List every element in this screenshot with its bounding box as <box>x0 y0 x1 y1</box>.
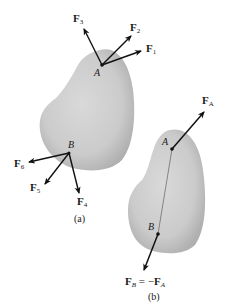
rigid-body-b <box>128 129 205 253</box>
point-a-dot <box>100 63 104 67</box>
label-f3: F3 <box>73 13 83 26</box>
label-point-b-b: B <box>148 222 154 232</box>
point-b-b-dot <box>156 232 160 236</box>
label-point-b: B <box>68 140 74 150</box>
diagram-graphics <box>0 0 235 307</box>
label-fb-equation: FB = −FA <box>125 276 165 289</box>
label-f2: F2 <box>130 22 140 35</box>
rigid-body-figure: F3 F2 F1 A B F6 F5 F4 (a) FA A B FB = −F… <box>0 0 235 307</box>
label-f1: F1 <box>146 43 156 56</box>
label-fa: FA <box>202 95 214 108</box>
rigid-body-a <box>40 49 134 170</box>
label-f4: F4 <box>77 196 87 209</box>
point-b-dot <box>68 152 71 155</box>
label-f6: F6 <box>14 158 24 171</box>
label-f5: F5 <box>30 182 40 195</box>
caption-b: (b) <box>148 292 160 302</box>
label-point-a: A <box>94 68 100 78</box>
point-a-b-dot <box>170 147 174 151</box>
label-point-a-b: A <box>162 137 168 147</box>
caption-a: (a) <box>74 214 85 224</box>
